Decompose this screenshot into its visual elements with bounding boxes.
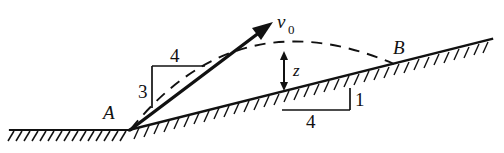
- height-z-label: z: [292, 61, 300, 80]
- velocity-subscript-label: 0: [288, 22, 295, 37]
- z-arrowhead-top: [280, 51, 288, 60]
- point-b-label: B: [393, 37, 405, 58]
- incline-run-label: 4: [306, 111, 316, 132]
- initial-velocity-vector: [130, 29, 264, 130]
- launch-run-label: 4: [170, 45, 180, 66]
- launch-rise-label: 3: [138, 81, 148, 102]
- point-a-label: A: [101, 102, 115, 123]
- ground-hatching: [8, 131, 126, 141]
- incline-rise-label: 1: [355, 89, 365, 110]
- velocity-label: v: [277, 11, 286, 32]
- diagram-canvas: A B v 0 z 4 3 4 1: [0, 0, 504, 153]
- projectile-incline-diagram: A B v 0 z 4 3 4 1: [0, 0, 504, 153]
